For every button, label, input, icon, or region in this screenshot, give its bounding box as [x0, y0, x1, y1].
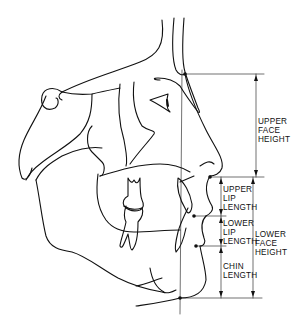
soft-tissue-profile: [180, 74, 222, 298]
label-chin-length: CHIN LENGTH: [223, 262, 257, 280]
label-upper-face-height: UPPER FACE HEIGHT: [258, 117, 290, 144]
label-lower-face-height: LOWER FACE HEIGHT: [255, 230, 287, 257]
cephalometric-tracing: [0, 0, 304, 328]
label-upper-lip-length: UPPER LIP LENGTH: [223, 185, 257, 212]
label-lower-lip-length: LOWER LIP LENGTH: [223, 219, 257, 246]
vertical-reference-line: [180, 70, 182, 314]
orbit: [150, 94, 170, 112]
teeth: [120, 176, 194, 252]
skull-outline: [19, 18, 199, 306]
